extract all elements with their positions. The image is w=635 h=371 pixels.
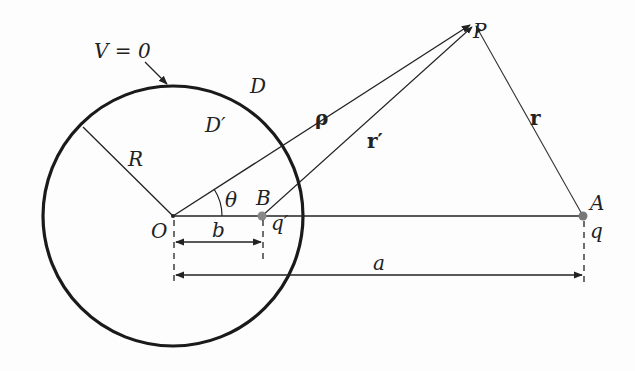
field-point-label: P [472, 19, 487, 43]
charge-label: q [590, 219, 603, 243]
inner-region-label: D′ [204, 113, 226, 137]
origin-point [171, 214, 175, 218]
charge-point-label: A [588, 191, 604, 215]
b-distance-label: b [212, 218, 225, 242]
r-prime-label: r′ [367, 129, 383, 153]
angle-label: θ [225, 188, 237, 212]
image-point-label: B [255, 186, 271, 210]
origin-label: O [151, 219, 167, 243]
rho-label: ρ [315, 106, 328, 130]
r-prime-vector [262, 27, 472, 216]
radius-line [83, 127, 173, 216]
image-charge-diagram: V = 0 D D′ R θ O B q′ A q P ρ r′ r b a [0, 0, 635, 371]
potential-label: V = 0 [94, 39, 151, 63]
r-label: r [530, 106, 541, 130]
outer-region-label: D [249, 74, 266, 98]
image-charge-point [258, 212, 267, 221]
v0-pointer-arrow [145, 62, 167, 84]
charge-point [579, 212, 588, 221]
radius-label: R [127, 147, 143, 171]
theta-arc [214, 189, 222, 216]
a-distance-label: a [373, 251, 385, 275]
image-charge-label: q′ [271, 211, 289, 235]
